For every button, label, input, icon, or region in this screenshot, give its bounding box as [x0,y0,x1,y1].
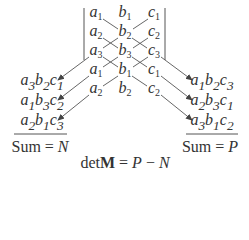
left-product-3: a2b1c3 [20,112,63,133]
right-sum: Sum = P [182,139,238,155]
repeat-b2: b2 [119,80,132,101]
left-product-2: a1b3c2 [20,92,63,113]
right-product-1: a1b2c3 [190,72,233,93]
repeat-c2: c2 [148,80,160,101]
repeat-a2: a2 [90,80,103,101]
right-product-2: a2b3c1 [190,92,233,113]
right-product-3: a3b1c2 [190,112,233,133]
determinant-formula: detM = P − N [80,154,169,172]
left-sum: Sum = N [11,139,68,155]
left-product-1: a3b2c1 [20,72,63,93]
